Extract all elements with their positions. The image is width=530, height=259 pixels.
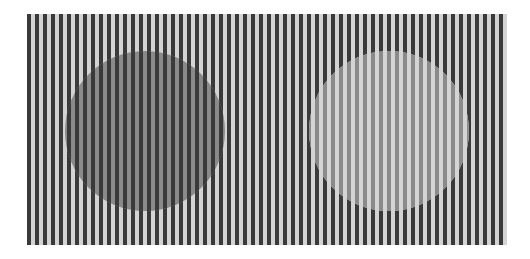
grating-illusion <box>0 0 530 259</box>
